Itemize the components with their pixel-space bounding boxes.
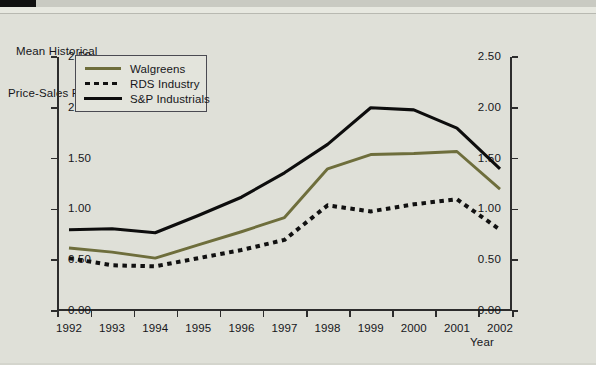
legend-item[interactable]: RDS Industry (83, 76, 200, 91)
x-axis-label: 1997 (263, 322, 307, 334)
x-axis-tick (220, 311, 222, 317)
y-axis-tick-right (512, 259, 518, 261)
y-axis-tick-right (512, 209, 518, 211)
x-axis-tick (478, 311, 480, 317)
y-axis-tick-right (512, 107, 518, 109)
legend-label: S&P Industrials (130, 93, 210, 105)
x-axis-caption: Year (470, 336, 494, 348)
header-divider (0, 13, 596, 14)
x-axis-tick (177, 311, 179, 317)
y-axis-tick-right (512, 158, 518, 160)
top-black-bar (0, 0, 36, 7)
chart-legend: Walgreens RDS Industry S&P Industrials (75, 55, 207, 112)
x-axis-label: 1995 (176, 322, 220, 334)
x-axis-tick (512, 311, 514, 317)
x-axis-tick (392, 311, 394, 317)
x-axis-tick (435, 311, 437, 317)
legend-line-swatch-rds-industry (83, 78, 123, 89)
x-axis-tick (57, 311, 59, 317)
x-axis-label: 2002 (478, 322, 522, 334)
x-axis-label: 1996 (219, 322, 263, 334)
series-line-walgreens (69, 151, 500, 258)
top-gray-strip (36, 0, 596, 7)
series-line-s-p-industrials (69, 108, 500, 233)
legend-item[interactable]: S&P Industrials (83, 91, 200, 106)
x-axis-label: 2001 (435, 322, 479, 334)
x-axis-tick (349, 311, 351, 317)
x-axis-label: 1998 (306, 322, 350, 334)
legend-line-swatch-walgreens (83, 63, 123, 74)
x-axis-tick (91, 311, 93, 317)
x-axis-tick (134, 311, 136, 317)
y-axis-tick-right (512, 56, 518, 58)
x-axis-tick (306, 311, 308, 317)
x-axis-label: 1992 (47, 322, 91, 334)
legend-label: Walgreens (130, 63, 185, 75)
x-axis-label: 1994 (133, 322, 177, 334)
x-axis-label: 1993 (90, 322, 134, 334)
legend-label: RDS Industry (130, 78, 200, 90)
legend-line-swatch-sp-industrials (83, 93, 123, 104)
legend-item[interactable]: Walgreens (83, 61, 200, 76)
x-axis-label: 2000 (392, 322, 436, 334)
x-axis-label: 1999 (349, 322, 393, 334)
x-axis-tick (263, 311, 265, 317)
chart-page: Mean Historical Price-Sales Ratios 0.000… (0, 0, 596, 365)
